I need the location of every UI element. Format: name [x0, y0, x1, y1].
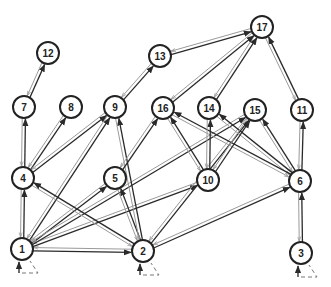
- graph-canvas: 1234567891011121314151617: [0, 0, 331, 287]
- edge-1-to-5: [31, 183, 107, 243]
- backward-edge: [265, 38, 295, 100]
- edge-5-to-16: [120, 116, 157, 170]
- node-label: 17: [256, 22, 268, 33]
- node-6[interactable]: 6: [289, 170, 311, 192]
- node-11[interactable]: 11: [291, 99, 313, 121]
- backward-edge: [299, 121, 300, 169]
- forward-edge: [33, 251, 131, 253]
- entry-markers: [19, 261, 317, 277]
- forward-edge: [30, 65, 45, 98]
- exit-dashed-icon: [22, 261, 38, 273]
- edge-6-to-11: [299, 121, 304, 170]
- node-1[interactable]: 1: [11, 238, 33, 260]
- backward-edge: [122, 63, 152, 97]
- edge-7-to-12: [27, 62, 44, 97]
- forward-edge: [269, 37, 299, 99]
- backward-edge: [34, 248, 132, 250]
- backward-edge: [21, 189, 22, 237]
- node-label: 7: [21, 102, 27, 113]
- entry-marker-2: [140, 263, 159, 275]
- edge-14-to-17: [214, 35, 257, 99]
- edge-4-to-9: [32, 112, 107, 172]
- exit-dashed-icon: [301, 265, 317, 277]
- forward-edge: [210, 120, 211, 169]
- node-15[interactable]: 15: [244, 99, 266, 121]
- edge-1-to-2: [33, 248, 132, 253]
- node-label: 14: [203, 103, 215, 114]
- entry-marker-1: [19, 261, 38, 273]
- node-7[interactable]: 7: [13, 96, 35, 118]
- node-5[interactable]: 5: [104, 167, 126, 189]
- forward-edge: [123, 119, 158, 170]
- node-label: 12: [42, 48, 54, 59]
- node-17[interactable]: 17: [251, 16, 273, 38]
- node-label: 11: [297, 105, 308, 116]
- forward-edge: [30, 118, 65, 170]
- edge-13-to-17: [171, 28, 251, 54]
- node-9[interactable]: 9: [104, 96, 126, 118]
- edge-11-to-17: [265, 37, 298, 100]
- node-2[interactable]: 2: [132, 240, 154, 262]
- backward-edge: [27, 62, 42, 95]
- forward-edge: [154, 187, 290, 248]
- edge-9-to-13: [122, 63, 154, 100]
- backward-edge: [22, 118, 23, 166]
- edge-3-to-6: [299, 192, 303, 242]
- node-10[interactable]: 10: [197, 169, 219, 191]
- node-label: 5: [112, 173, 118, 184]
- forward-edge: [216, 38, 256, 100]
- node-label: 16: [157, 103, 169, 114]
- node-label: 13: [154, 51, 166, 62]
- node-label: 3: [298, 248, 304, 259]
- exit-dashed-icon: [143, 263, 159, 275]
- backward-edge: [214, 35, 254, 97]
- node-13[interactable]: 13: [149, 45, 171, 67]
- node-16[interactable]: 16: [152, 97, 174, 119]
- edge-2-to-6: [153, 184, 289, 248]
- node-8[interactable]: 8: [60, 96, 82, 118]
- node-label: 4: [20, 173, 26, 184]
- node-label: 1: [19, 244, 25, 255]
- backward-edge: [120, 116, 155, 167]
- backward-edge: [31, 183, 106, 240]
- backward-edge: [299, 192, 300, 241]
- edge-1-to-4: [21, 189, 25, 238]
- forward-edge: [302, 193, 303, 242]
- node-label: 9: [112, 102, 118, 113]
- edge-4-to-7: [22, 118, 26, 167]
- node-label: 10: [202, 175, 214, 186]
- node-4[interactable]: 4: [12, 167, 34, 189]
- backward-edge: [28, 115, 63, 167]
- node-3[interactable]: 3: [290, 242, 312, 264]
- backward-edge: [207, 119, 208, 168]
- entry-marker-3: [298, 265, 317, 277]
- forward-edge: [24, 190, 25, 238]
- forward-edge: [263, 119, 296, 171]
- backward-edge: [167, 118, 200, 170]
- forward-edge: [302, 122, 303, 170]
- forward-edge: [173, 36, 254, 102]
- node-14[interactable]: 14: [198, 97, 220, 119]
- node-label: 15: [249, 105, 261, 116]
- forward-edge: [123, 66, 153, 100]
- node-label: 6: [297, 176, 303, 187]
- node-label: 8: [68, 102, 74, 113]
- node-label: 2: [140, 246, 146, 257]
- edge-10-to-14: [207, 119, 211, 169]
- backward-edge: [172, 115, 289, 177]
- node-12[interactable]: 12: [37, 42, 59, 64]
- forward-edge: [25, 119, 26, 167]
